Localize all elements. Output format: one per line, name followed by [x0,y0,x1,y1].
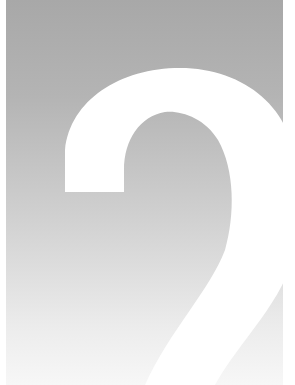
numeral-two-graphic [0,0,295,385]
